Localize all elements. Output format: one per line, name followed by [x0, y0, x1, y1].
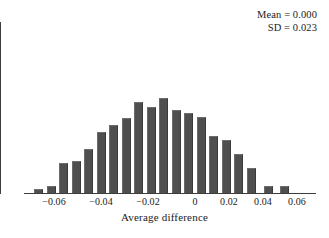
x-tick-label: −0.04: [89, 196, 113, 207]
histogram-bar: [34, 189, 43, 193]
histogram-bar: [159, 98, 168, 194]
x-tick-label: 0: [192, 196, 197, 207]
histogram-figure: Mean = 0.000 SD = 0.023 −0.06−0.04−0.020…: [0, 0, 329, 238]
x-tick-label: −0.02: [136, 196, 160, 207]
histogram-bar: [109, 125, 118, 193]
histogram-bar: [197, 117, 206, 193]
histogram-bar: [280, 186, 289, 193]
histogram-bar: [134, 102, 143, 193]
histogram-bar: [247, 168, 256, 193]
histogram-bar: [84, 149, 93, 194]
x-tick-label: 0.04: [254, 196, 272, 207]
histogram-bar: [59, 163, 68, 193]
x-tick-label: −0.06: [42, 196, 66, 207]
histogram-bars: [24, 22, 312, 193]
histogram-bar: [264, 186, 273, 194]
histogram-bar: [47, 186, 56, 193]
plot-area: [24, 22, 312, 193]
histogram-bar: [122, 118, 131, 194]
x-axis-line: [24, 193, 316, 194]
histogram-bar: [97, 132, 106, 194]
x-axis-title: Average difference: [0, 211, 329, 223]
histogram-bar: [222, 140, 231, 193]
histogram-bar: [147, 107, 156, 193]
x-tick-label: 0.06: [288, 196, 306, 207]
histogram-bar: [72, 161, 81, 194]
histogram-bar: [184, 113, 193, 194]
x-tick-label: 0.02: [220, 196, 238, 207]
histogram-bar: [234, 154, 243, 193]
mean-annotation: Mean = 0.000: [257, 8, 317, 21]
histogram-bar: [172, 110, 181, 193]
histogram-bar: [209, 136, 218, 193]
y-axis-line: [0, 22, 1, 194]
